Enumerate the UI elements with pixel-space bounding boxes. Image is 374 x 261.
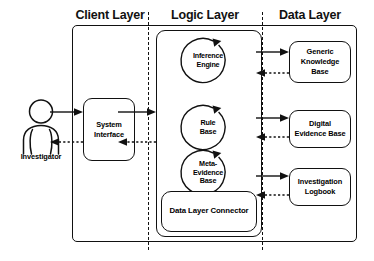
connector-investigation-logbook xyxy=(255,170,295,204)
node-inference-engine[interactable]: Inference Engine xyxy=(185,38,231,84)
circle-with-loop-arrow-icon xyxy=(185,150,231,196)
node-digital-evidence-base-label: Digital Evidence Base xyxy=(295,119,346,139)
connector-digital-evidence-base xyxy=(255,112,295,146)
node-investigation-logbook-label: Investigation Logbook xyxy=(298,177,342,197)
architecture-diagram: Client Layer Logic Layer Data Layer Inve… xyxy=(0,0,374,261)
investigator-label: Investigator xyxy=(5,152,77,161)
node-meta-evidence-base[interactable]: Meta- Evidence Base xyxy=(185,150,231,196)
node-data-layer-connector[interactable]: Data Layer Connector xyxy=(161,191,257,232)
node-investigation-logbook[interactable]: Investigation Logbook xyxy=(289,168,351,206)
node-generic-knowledge-base[interactable]: Generic Knowledge Base xyxy=(289,41,351,83)
layer-title-data: Data Layer xyxy=(262,8,358,22)
connector-generic-knowledge-base xyxy=(255,46,295,82)
layer-title-client: Client Layer xyxy=(72,8,148,22)
node-data-layer-connector-label: Data Layer Connector xyxy=(169,206,248,216)
node-digital-evidence-base[interactable]: Digital Evidence Base xyxy=(289,110,351,148)
node-rule-base[interactable]: Rule Base xyxy=(185,105,231,151)
node-generic-knowledge-base-label: Generic Knowledge Base xyxy=(301,47,340,76)
circle-with-loop-arrow-icon xyxy=(185,105,231,151)
circle-with-loop-arrow-icon xyxy=(185,38,231,84)
client-layer-connectors xyxy=(48,100,158,150)
layer-title-logic: Logic Layer xyxy=(150,8,260,22)
